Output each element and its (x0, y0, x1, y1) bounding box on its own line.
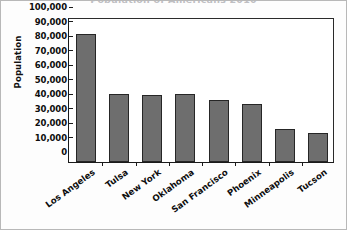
y-axis-tick-label: 0 (61, 147, 69, 157)
y-axis-tick-label: 80,000 (35, 31, 69, 41)
y-axis-tick-label: 90,000 (35, 17, 69, 27)
bar (275, 129, 295, 162)
x-axis-category-label: Los Angeles (43, 167, 96, 210)
y-axis-tick: 90,000 (35, 17, 69, 27)
bar-slot (142, 95, 162, 162)
bar-slot (242, 104, 262, 162)
y-axis-tick: 20,000 (35, 118, 69, 128)
y-axis-tick-label: 30,000 (35, 104, 69, 114)
x-axis-tick-mark (302, 162, 303, 166)
bar-series (69, 18, 334, 162)
x-axis-tick-mark (235, 162, 236, 166)
y-axis-tick: 100,000 (29, 2, 69, 12)
y-axis-tick-label: 60,000 (35, 60, 69, 70)
bar (209, 100, 229, 162)
bar (308, 133, 328, 162)
y-axis-tick: 40,000 (35, 89, 69, 99)
bar (109, 94, 129, 162)
bar (142, 95, 162, 162)
y-axis-tick-label: 10,000 (35, 133, 69, 143)
y-axis-tick: 70,000 (35, 46, 69, 56)
bar-slot (76, 34, 96, 162)
plot-area: 010,00020,00030,00040,00050,00060,00070,… (68, 18, 334, 163)
x-axis-tick-mark (169, 162, 170, 166)
bar-slot (175, 94, 195, 162)
bar-slot (209, 100, 229, 162)
y-axis-tick-label: 20,000 (35, 118, 69, 128)
y-axis-tick-label: 40,000 (35, 89, 69, 99)
y-axis-tick: 10,000 (35, 133, 69, 143)
bar-slot (109, 94, 129, 162)
bar (242, 104, 262, 162)
bar-slot (308, 133, 328, 162)
bar-slot (275, 129, 295, 162)
x-axis-tick-mark (136, 162, 137, 166)
bar-chart-figure: Population of Americans 2010 Population … (0, 0, 347, 230)
y-axis-tick-label: 100,000 (29, 2, 69, 12)
y-axis-tick: 80,000 (35, 31, 69, 41)
y-axis-tick: 30,000 (35, 104, 69, 114)
y-axis-tick-label: 70,000 (35, 46, 69, 56)
bar (175, 94, 195, 162)
x-axis-category-label: Tucson (296, 167, 329, 195)
y-axis-tick-label: 50,000 (35, 75, 69, 85)
x-axis-tick-mark (269, 162, 270, 166)
y-axis-tick: 0 (61, 147, 69, 157)
x-axis-tick-mark (202, 162, 203, 166)
x-axis-category-label: Tulsa (104, 167, 130, 190)
y-axis-title: Population (13, 25, 23, 99)
y-axis-tick: 50,000 (35, 75, 69, 85)
y-axis-tick: 60,000 (35, 60, 69, 70)
x-axis-tick-mark (102, 162, 103, 166)
bar (76, 34, 96, 162)
y-axis-tick-mark (69, 7, 73, 8)
